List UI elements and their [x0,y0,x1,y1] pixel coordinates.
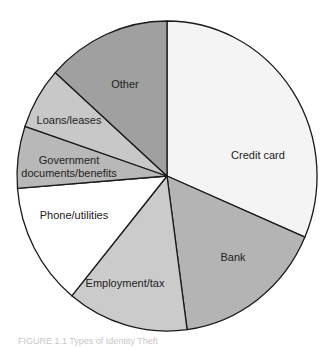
pie-chart: Credit card Bank Employment/tax Phone/ut… [0,0,334,347]
label-loans-leases: Loans/leases [37,114,102,126]
label-employment-tax: Employment/tax [86,277,165,289]
figure-caption: FIGURE 1.1 Types of Identity Theft [18,336,158,346]
label-government-line1: Government [39,154,100,166]
label-bank: Bank [220,251,246,263]
label-phone-utilities: Phone/utilities [40,209,109,221]
label-government-line2: documents/benefits [21,167,117,179]
label-other: Other [111,78,139,90]
label-credit-card: Credit card [231,149,285,161]
